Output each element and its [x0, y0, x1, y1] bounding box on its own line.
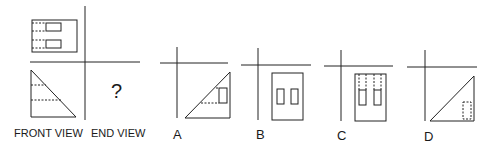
option-d-label[interactable]: D: [424, 129, 433, 144]
front-view-label: FRONT VIEW: [14, 127, 83, 139]
top-view-hidden-lines: [32, 23, 46, 48]
option-b-figure[interactable]: [241, 48, 311, 120]
option-b-label[interactable]: B: [256, 127, 265, 142]
option-d-figure[interactable]: [407, 50, 477, 121]
top-view-slot-1: [46, 23, 61, 31]
end-view-label: END VIEW: [91, 127, 145, 139]
top-view-outline: [32, 20, 77, 52]
option-a-figure[interactable]: [160, 47, 230, 118]
front-view-hidden-lines: [31, 85, 61, 100]
top-view-slot-2: [46, 40, 61, 48]
option-a-label[interactable]: A: [173, 127, 182, 142]
option-c-label[interactable]: C: [337, 128, 346, 143]
option-c-figure[interactable]: [324, 50, 393, 121]
unknown-end-view-mark: ?: [111, 80, 122, 103]
front-view-triangle: [31, 70, 76, 117]
